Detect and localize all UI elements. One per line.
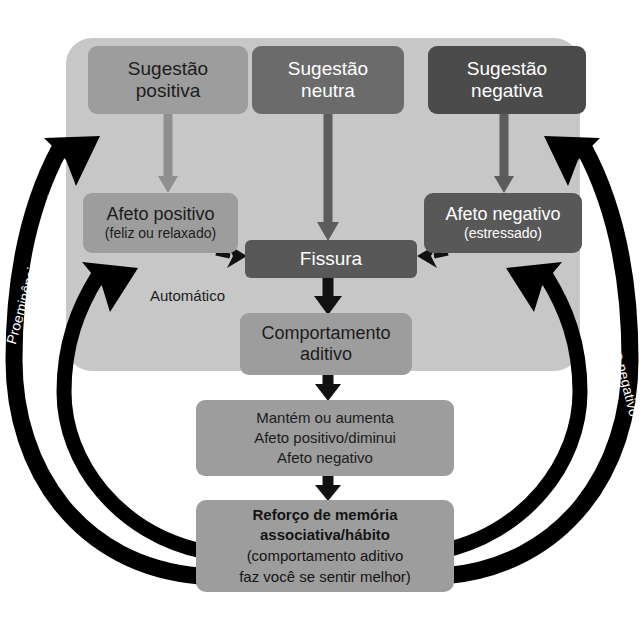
- node-sugestao-negativa-line1: Sugestão: [467, 58, 547, 80]
- node-comportamento-aditivo[interactable]: Comportamento aditivo: [240, 313, 412, 375]
- node-mantem-ou-aumenta[interactable]: Mantém ou aumenta Afeto positivo/diminui…: [196, 400, 454, 476]
- node-reforco-line3: (comportamento aditivo: [247, 546, 404, 567]
- node-comportamento-aditivo-line2: aditivo: [300, 344, 352, 365]
- node-sugestao-positiva-line2: positiva: [136, 80, 200, 102]
- node-sugestao-neutra-line1: Sugestão: [288, 58, 368, 80]
- node-afeto-positivo-line1: Afeto positivo: [106, 204, 214, 225]
- node-afeto-negativo[interactable]: Afeto negativo (estressado): [424, 193, 582, 253]
- node-reforco-line2: associativa/hábito: [260, 525, 390, 546]
- node-afeto-negativo-line2: (estressado): [464, 225, 542, 242]
- connector-comportamento-to-mantem: [315, 375, 341, 401]
- node-fissura-line1: Fissura: [300, 248, 362, 270]
- label-automatico: Automático: [150, 287, 225, 304]
- node-sugestao-positiva-line1: Sugestão: [128, 58, 208, 80]
- node-mantem-line1: Mantém ou aumenta: [256, 408, 394, 428]
- node-reforco-line1: Reforço de memória: [252, 505, 397, 526]
- node-sugestao-neutra-line2: neutra: [301, 80, 355, 102]
- connector-mantem-to-reforco: [315, 476, 341, 501]
- node-reforco-memoria[interactable]: Reforço de memória associativa/hábito (c…: [196, 500, 454, 592]
- node-fissura[interactable]: Fissura: [245, 240, 417, 278]
- node-reforco-line4: faz você se sentir melhor): [239, 567, 411, 588]
- node-sugestao-negativa-line2: negativa: [471, 80, 543, 102]
- node-afeto-negativo-line1: Afeto negativo: [445, 204, 560, 225]
- node-sugestao-negativa[interactable]: Sugestão negativa: [428, 46, 586, 114]
- diagram-canvas: Sugestão positiva Sugestão neutra Sugest…: [0, 0, 644, 622]
- node-afeto-positivo-line2: (feliz ou relaxado): [105, 225, 216, 242]
- node-afeto-positivo[interactable]: Afeto positivo (feliz ou relaxado): [83, 193, 238, 253]
- node-sugestao-neutra[interactable]: Sugestão neutra: [252, 46, 404, 114]
- node-mantem-line2: Afeto positivo/diminui: [254, 428, 396, 448]
- node-comportamento-aditivo-line1: Comportamento: [261, 323, 390, 344]
- node-mantem-line3: Afeto negativo: [277, 448, 373, 468]
- node-sugestao-positiva[interactable]: Sugestão positiva: [88, 46, 248, 114]
